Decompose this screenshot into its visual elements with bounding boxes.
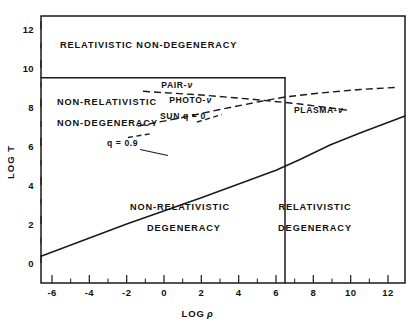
x-tick-label: 0 [161,287,167,298]
y-axis-tick-labels: 0 2 4 6 8 10 12 [23,24,35,269]
x-tick-label: 4 [236,287,242,298]
annotation-photo-nu: PHOTO- ν [169,95,212,105]
plasma-nu-label: PLASMA- [294,105,337,115]
x-tick-label: 10 [345,287,356,298]
degeneracy-boundary-curve [41,116,405,256]
phase-diagram-figure: -6 -4 -2 0 2 4 6 8 10 12 [0,0,420,331]
region-label-non-relativistic-degeneracy-line1: NON-RELATIVISTIC [130,202,230,212]
photo-nu-label: PHOTO- [169,95,206,105]
y-tick-label: 6 [28,141,34,152]
x-tick-label: 6 [273,287,279,298]
x-axis-title-symbol: ρ [206,308,213,319]
x-axis-ticks [52,275,388,283]
y-axis-title: LOG T [5,145,16,179]
x-tick-label: 2 [198,287,204,298]
plot-frame [41,16,405,283]
y-tick-label: 2 [28,219,34,230]
x-tick-label: 8 [310,287,316,298]
pair-nu-label: PAIR- [161,80,187,90]
region-label-non-relativistic-non-degeneracy-line2: NON-DEGENERACY [57,118,158,128]
annotation-sun-q-0: SUN q = 0 [160,111,206,121]
y-tick-label: 8 [28,102,34,113]
x-axis-title: LOG ρ [181,308,213,319]
nu-symbol-icon: ν [188,80,193,90]
region-label-non-relativistic-non-degeneracy-line1: NON-RELATIVISTIC [57,97,157,107]
x-tick-label: -6 [47,287,56,298]
x-tick-label: -4 [85,287,95,298]
frame-border [41,16,405,283]
x-tick-label: -2 [122,287,131,298]
y-tick-label: 0 [28,258,34,269]
y-tick-label: 4 [28,180,34,191]
annotation-q-0-9: q = 0.9 [107,138,138,148]
annotation-plasma-nu: PLASMA- ν [294,105,343,115]
q-0-9-leader-line [140,150,168,156]
region-label-non-relativistic-degeneracy-line2: DEGENERACY [147,223,221,233]
x-axis-tick-labels: -6 -4 -2 0 2 4 6 8 10 12 [47,287,393,298]
region-label-relativistic-degeneracy-line2: DEGENERACY [278,223,352,233]
plot-area: -6 -4 -2 0 2 4 6 8 10 12 [0,0,420,331]
nu-symbol-icon: ν [338,105,343,115]
nu-symbol-icon: ν [207,95,212,105]
sun-leader-line [128,134,152,138]
y-tick-label: 10 [23,63,34,74]
x-tick-label: 12 [382,287,393,298]
y-tick-label: 12 [23,24,34,35]
region-label-relativistic-non-degeneracy: RELATIVISTIC NON-DEGENERACY [60,40,237,50]
annotation-pair-nu: PAIR- ν [161,80,192,90]
x-axis-title-text: LOG [181,308,205,319]
region-label-relativistic-degeneracy-line1: RELATIVISTIC [279,202,352,212]
